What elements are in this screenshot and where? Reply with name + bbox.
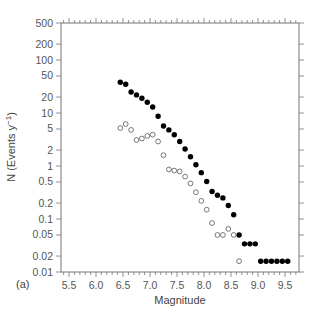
filled-data-point (199, 170, 204, 175)
y-tick-label: 200 (35, 38, 53, 50)
filled-data-point (204, 179, 209, 184)
filled-data-point (253, 241, 258, 246)
y-tick-label: 0.2 (38, 197, 53, 209)
x-tick-label: 8.0 (197, 279, 212, 291)
open-data-point (210, 221, 215, 226)
y-tick-label: 1 (47, 160, 53, 172)
open-data-point (177, 169, 182, 174)
y-tick-label: 20 (41, 91, 53, 103)
open-data-point (129, 128, 134, 133)
x-tick-label: 9.5 (278, 279, 293, 291)
x-axis-label: Magnitude (154, 294, 205, 306)
open-data-point (140, 136, 145, 141)
open-data-point (118, 126, 123, 131)
filled-data-point (161, 123, 166, 128)
open-data-point (156, 139, 161, 144)
open-data-point (215, 233, 220, 238)
filled-data-point (145, 100, 150, 105)
filled-data-point (128, 89, 133, 94)
open-data-point (221, 233, 226, 238)
plot-frame (61, 23, 299, 272)
y-axis-label: N (Events y−1) (4, 112, 17, 182)
y-tick-label: 0.02 (33, 250, 54, 262)
x-tick-label: 6.0 (89, 279, 104, 291)
filled-data-point (172, 132, 177, 137)
open-data-point (134, 138, 139, 143)
x-tick-label: 7.0 (143, 279, 158, 291)
filled-data-point (285, 258, 290, 263)
open-data-point (150, 132, 155, 137)
filled-data-point (166, 127, 171, 132)
open-data-point (204, 207, 209, 212)
filled-data-point (226, 203, 231, 208)
open-data-point (172, 168, 177, 173)
open-data-point (199, 198, 204, 203)
filled-data-point (263, 258, 268, 263)
open-data-point (123, 122, 128, 127)
open-data-point (145, 134, 150, 139)
y-tick-label: 100 (35, 54, 53, 66)
filled-data-point (123, 81, 128, 86)
filled-data-point (182, 146, 187, 151)
filled-data-point (236, 232, 241, 237)
filled-data-point (155, 114, 160, 119)
y-axis: 0.010.020.050.10.20.5125102050100200500 (33, 17, 304, 278)
filled-data-point (193, 162, 198, 167)
y-tick-label: 0.01 (33, 266, 54, 278)
filled-data-point (118, 80, 123, 85)
x-axis: 5.56.06.57.07.58.08.59.09.5 (62, 18, 296, 291)
x-tick-label: 8.5 (224, 279, 239, 291)
open-data-point (231, 233, 236, 238)
y-tick-label: 0.1 (38, 213, 53, 225)
y-tick-label: 10 (41, 107, 53, 119)
data-points (118, 80, 291, 264)
filled-data-point (177, 139, 182, 144)
open-data-point (194, 190, 199, 195)
filled-data-point (215, 193, 220, 198)
open-data-point (183, 174, 188, 179)
y-tick-label: 0.05 (33, 228, 54, 240)
open-data-point (237, 259, 242, 264)
filled-data-point (247, 241, 252, 246)
filled-data-point (280, 258, 285, 263)
filled-data-point (242, 241, 247, 246)
x-tick-label: 5.5 (62, 279, 77, 291)
y-tick-label: 0.5 (38, 175, 53, 187)
filled-data-point (274, 258, 279, 263)
panel-label: (a) (16, 278, 29, 290)
open-data-point (167, 167, 172, 172)
x-tick-label: 6.5 (116, 279, 131, 291)
open-data-point (226, 227, 231, 232)
y-tick-label: 5 (47, 122, 53, 134)
filled-data-point (150, 104, 155, 109)
y-tick-label: 50 (41, 69, 53, 81)
filled-data-point (220, 195, 225, 200)
filled-data-point (188, 154, 193, 159)
filled-data-point (258, 258, 263, 263)
x-tick-label: 9.0 (251, 279, 266, 291)
magnitude-frequency-chart: 5.56.06.57.07.58.08.59.09.5 0.010.020.05… (0, 0, 317, 324)
open-data-point (161, 153, 166, 158)
y-tick-label: 2 (47, 144, 53, 156)
filled-data-point (134, 92, 139, 97)
filled-data-point (231, 212, 236, 217)
x-tick-label: 7.5 (170, 279, 185, 291)
filled-data-point (209, 189, 214, 194)
filled-data-point (139, 96, 144, 101)
filled-data-point (269, 258, 274, 263)
y-tick-label: 500 (35, 17, 53, 29)
open-data-point (188, 181, 193, 186)
